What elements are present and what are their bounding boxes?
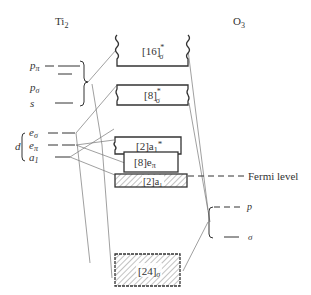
ti2-title: Ti2 <box>55 15 68 30</box>
label-a1: a1 <box>29 151 39 165</box>
ti-level-labels: pπ pσ s eσ eπ a1 d <box>15 59 41 165</box>
band-8e-pi: [8]eπ <box>124 152 178 172</box>
ti-connectors <box>70 50 125 278</box>
band-16-sigma-star: [16]*σ <box>116 35 190 66</box>
o-p-label: p <box>246 201 252 212</box>
band-8-sigma-star: [8]*σ <box>116 85 189 105</box>
label-e-sigma: eσ <box>29 126 39 140</box>
d-bracket <box>22 133 25 161</box>
o-connectors <box>183 50 210 271</box>
label-s: s <box>30 97 34 109</box>
label-p-pi: pπ <box>29 59 41 73</box>
label-p-sigma: pσ <box>29 81 41 95</box>
sp-brace <box>80 61 88 106</box>
mo-band-diagram: Ti2 O3 pπ pσ s eσ eπ a1 d <box>0 0 311 295</box>
o3-title: O3 <box>233 15 245 30</box>
band-24-sigma: [24]σ <box>115 254 180 286</box>
o-sigma-label: σ <box>248 232 253 242</box>
o-levels: p σ <box>209 201 253 242</box>
ti-level-lines <box>45 66 80 157</box>
o-bracket <box>209 207 213 238</box>
label-d: d <box>15 140 21 152</box>
band-2a1: [2]a1 <box>115 174 187 189</box>
fermi-level-label: Fermi level <box>248 170 298 182</box>
